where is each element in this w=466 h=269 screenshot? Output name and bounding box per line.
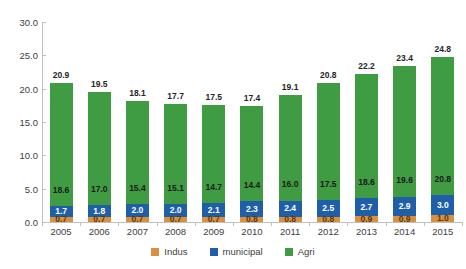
x-axis-tick-label: 2007 [118,226,156,237]
bar-segment-municipal[interactable]: 3.0 [431,195,454,215]
legend-swatch-icon [151,248,159,256]
bar-group[interactable]: 17.715.12.00.7 [157,22,195,222]
bar-segment-municipal[interactable]: 1.7 [50,206,73,217]
bar-segment-municipal[interactable]: 2.3 [240,201,263,216]
y-axis-tick-label: 5.0 [0,183,38,194]
bar-group[interactable]: 20.918.61.70.7 [42,22,80,222]
y-axis-tick-label: 20.0 [0,83,38,94]
bar-segment-municipal[interactable]: 2.0 [164,204,187,217]
bar-segment-indus[interactable]: 0.8 [279,217,302,222]
bar-group[interactable]: 18.115.42.00.7 [118,22,156,222]
bar-segment-municipal-value-label: 2.3 [246,205,258,214]
bar-segment-municipal-value-label: 2.1 [208,206,220,215]
bar-stack[interactable]: 15.42.00.7 [126,101,149,222]
y-axis-tick-label: 15.0 [0,117,38,128]
bar-segment-agri[interactable]: 15.4 [126,101,149,204]
bar-segment-agri[interactable]: 15.1 [164,104,187,204]
bar-stack[interactable]: 14.72.10.7 [202,105,225,222]
legend-item[interactable]: Agri [285,246,315,257]
bar-group[interactable]: 22.218.62.70.9 [347,22,385,222]
bar-total-label: 20.8 [320,70,337,80]
bar-series-area: 20.918.61.70.719.517.01.80.718.115.42.00… [42,22,462,222]
bar-segment-municipal-value-label: 2.0 [132,206,144,215]
bar-segment-indus[interactable]: 1.0 [431,215,454,222]
y-axis-tick-label: 25.0 [0,50,38,61]
bar-segment-agri-value-label: 14.7 [205,183,222,192]
bar-group[interactable]: 17.414.42.30.8 [233,22,271,222]
bar-segment-agri-value-label: 18.6 [53,186,70,195]
x-axis-line [42,222,462,223]
bar-stack[interactable]: 20.83.01.0 [431,57,454,222]
bar-total-label: 17.5 [205,92,222,102]
x-axis-tick-label: 2014 [386,226,424,237]
bar-stack[interactable]: 14.42.30.8 [240,106,263,222]
bar-group[interactable]: 20.817.52.50.8 [309,22,347,222]
bar-segment-indus[interactable]: 0.9 [355,216,378,222]
bar-stack[interactable]: 15.12.00.7 [164,104,187,222]
bar-segment-agri-value-label: 14.4 [244,181,261,190]
bar-segment-municipal[interactable]: 1.8 [88,205,111,217]
bar-stack[interactable]: 16.02.40.8 [279,95,302,222]
bar-segment-agri[interactable]: 14.7 [202,105,225,203]
bar-stack[interactable]: 19.62.90.9 [393,66,416,222]
bar-segment-municipal[interactable]: 2.5 [317,200,340,217]
bar-segment-indus[interactable]: 0.7 [50,217,73,222]
bar-total-label: 19.5 [91,79,108,89]
bar-segment-indus[interactable]: 0.7 [126,217,149,222]
bar-segment-agri-value-label: 18.6 [358,178,375,187]
bar-segment-agri[interactable]: 14.4 [240,106,263,201]
bar-stack[interactable]: 17.01.80.7 [88,92,111,222]
bar-segment-municipal[interactable]: 2.4 [279,201,302,217]
bar-segment-indus-value-label: 0.9 [361,215,373,224]
bar-segment-agri[interactable]: 19.6 [393,66,416,197]
bar-stack[interactable]: 18.62.70.9 [355,74,378,222]
bar-group[interactable]: 23.419.62.90.9 [386,22,424,222]
bar-total-label: 23.4 [396,53,413,63]
bar-segment-agri[interactable]: 18.6 [50,83,73,206]
bar-segment-agri[interactable]: 16.0 [279,95,302,201]
bar-segment-agri[interactable]: 18.6 [355,74,378,198]
bar-segment-indus[interactable]: 0.7 [202,217,225,222]
y-axis-tick-label: 10.0 [0,150,38,161]
bar-segment-municipal-value-label: 2.0 [170,206,182,215]
legend-swatch-icon [285,248,293,256]
bar-stack[interactable]: 17.52.50.8 [317,83,340,222]
legend-label: municipal [223,246,263,257]
bar-total-label: 20.9 [53,70,70,80]
y-axis-tick-label: 0.0 [0,217,38,228]
bar-segment-municipal[interactable]: 2.9 [393,197,416,216]
bar-segment-municipal[interactable]: 2.7 [355,198,378,216]
bar-segment-indus[interactable]: 0.8 [240,217,263,222]
x-axis-tick-label: 2008 [157,226,195,237]
bar-segment-agri-value-label: 15.4 [129,184,146,193]
bar-group[interactable]: 17.514.72.10.7 [195,22,233,222]
bar-segment-municipal-value-label: 1.7 [55,207,67,216]
bar-segment-agri-value-label: 15.1 [167,184,184,193]
bar-segment-indus-value-label: 0.9 [399,215,411,224]
chart-legend: IndusmunicipalAgri [0,246,466,257]
bar-segment-indus[interactable]: 0.8 [317,217,340,222]
bar-segment-agri-value-label: 20.8 [435,175,452,184]
bar-total-label: 24.8 [435,44,452,54]
bar-segment-agri[interactable]: 17.0 [88,92,111,205]
bar-segment-municipal[interactable]: 2.1 [202,203,225,217]
legend-item[interactable]: municipal [210,246,263,257]
x-axis-label-group: 2005200620072008200920102011201220132014… [42,226,462,237]
bar-segment-municipal[interactable]: 2.0 [126,204,149,217]
bar-segment-indus[interactable]: 0.9 [393,216,416,222]
bar-group[interactable]: 24.820.83.01.0 [424,22,462,222]
bar-segment-indus-value-label: 1.0 [437,214,449,223]
legend-label: Indus [164,246,187,257]
bar-segment-agri[interactable]: 17.5 [317,83,340,200]
bar-segment-indus[interactable]: 0.7 [88,217,111,222]
bar-total-label: 18.1 [129,88,146,98]
legend-swatch-icon [210,248,218,256]
legend-item[interactable]: Indus [151,246,187,257]
bar-segment-agri[interactable]: 20.8 [431,57,454,196]
bar-stack[interactable]: 18.61.70.7 [50,83,73,222]
y-axis-tick-label: 30.0 [0,17,38,28]
bar-group[interactable]: 19.116.02.40.8 [271,22,309,222]
bar-segment-municipal-value-label: 1.8 [93,207,105,216]
bar-segment-indus[interactable]: 0.7 [164,217,187,222]
bar-group[interactable]: 19.517.01.80.7 [80,22,118,222]
